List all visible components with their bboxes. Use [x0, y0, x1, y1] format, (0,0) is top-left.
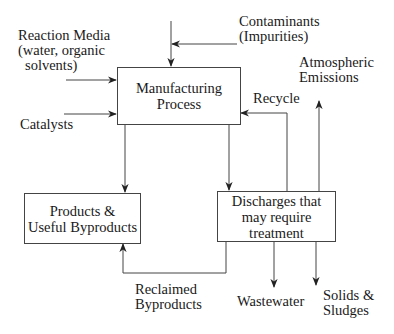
manufacturing-process-box: Manufacturing Process	[117, 67, 241, 125]
arrow-reclaimed	[123, 241, 226, 273]
discharges-line1: Discharges that	[232, 193, 322, 209]
wastewater-label: Wastewater	[237, 294, 304, 309]
discharges-line2: may require	[232, 209, 322, 225]
products-line1: Products &	[28, 203, 137, 219]
reclaimed-line2: Byproducts	[135, 297, 202, 312]
discharges-box: Discharges that may require treatment	[217, 191, 336, 242]
products-box: Products & Useful Byproducts	[24, 193, 141, 244]
atmospheric-line2: Emissions	[299, 70, 374, 85]
solids-line2: Sludges	[323, 303, 374, 318]
reclaimed-line1: Reclaimed	[135, 282, 202, 297]
manufacturing-line1: Manufacturing	[136, 80, 222, 96]
solids-line1: Solids &	[323, 288, 374, 303]
solids-sludges-label: Solids & Sludges	[323, 288, 374, 318]
reaction-media-line2: (water, organic	[18, 43, 110, 58]
discharges-line3: treatment	[232, 225, 322, 241]
recycle-label: Recycle	[253, 91, 300, 106]
reaction-media-line1: Reaction Media	[18, 28, 110, 43]
reaction-media-label: Reaction Media (water, organic solvents)	[18, 28, 110, 73]
contaminants-line2: (Impurities)	[239, 29, 320, 44]
contaminants-label: Contaminants (Impurities)	[239, 14, 320, 44]
reclaimed-byproducts-label: Reclaimed Byproducts	[135, 282, 202, 312]
catalysts-label: Catalysts	[20, 117, 73, 132]
arrow-recycle	[241, 113, 287, 191]
atmospheric-line1: Atmospheric	[299, 55, 374, 70]
contaminants-line1: Contaminants	[239, 14, 320, 29]
products-line2: Useful Byproducts	[28, 219, 137, 235]
reaction-media-line3: solvents)	[18, 58, 110, 73]
atmospheric-emissions-label: Atmospheric Emissions	[299, 55, 374, 85]
manufacturing-line2: Process	[136, 96, 222, 112]
